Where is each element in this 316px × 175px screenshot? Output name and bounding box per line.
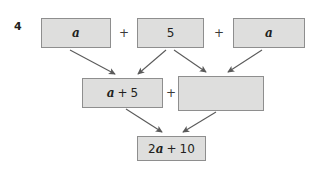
- arrow-a1-to-a5: [70, 50, 115, 74]
- operator-plus-middle: +: [164, 87, 178, 99]
- arrow-a5-to-res: [126, 109, 162, 132]
- operator-plus-top-left: +: [114, 27, 134, 39]
- node-a-plus-5-number: 5: [131, 87, 139, 99]
- node-5[interactable]: 5: [137, 18, 204, 48]
- node-a1[interactable]: a: [41, 18, 111, 48]
- operator-plus-top-right: +: [209, 27, 229, 39]
- node-result-variable: a: [156, 143, 164, 155]
- arrow-5-to-a5: [138, 50, 166, 74]
- node-result-coefficient: 2: [148, 143, 156, 155]
- arrow-a2-to-blank: [228, 50, 262, 72]
- question-number: 4: [14, 20, 22, 33]
- arrow-5-to-blank: [174, 50, 206, 72]
- node-a2[interactable]: a: [233, 18, 305, 48]
- arrow-blank-to-res: [183, 112, 216, 132]
- node-a-plus-5[interactable]: a + 5: [82, 78, 163, 108]
- node-5-label: 5: [167, 27, 175, 39]
- node-result[interactable]: 2 a + 10: [137, 136, 206, 161]
- node-a-plus-5-variable: a: [107, 87, 115, 99]
- node-result-constant: 10: [180, 143, 195, 155]
- node-result-operator: +: [164, 143, 180, 155]
- node-a1-label: a: [72, 27, 80, 39]
- node-blank-answer-box[interactable]: [178, 76, 264, 111]
- worksheet-diagram-page: 4 a + 5 + a a + 5 + 2 a + 10: [0, 0, 316, 175]
- node-a-plus-5-operator: +: [115, 87, 131, 99]
- node-a2-label: a: [265, 27, 273, 39]
